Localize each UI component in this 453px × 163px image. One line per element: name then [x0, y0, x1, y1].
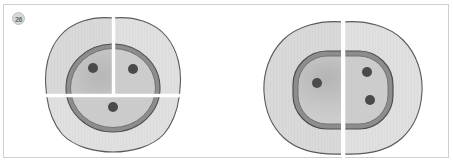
left-dot-upper-left	[88, 63, 98, 73]
right-dot-left-middle	[312, 78, 322, 88]
figure-canvas: 26	[0, 0, 453, 163]
right-dot-right-lower	[365, 95, 375, 105]
specimen-illustrations	[0, 0, 453, 163]
panel-number-badge: 26	[12, 12, 25, 25]
left-dot-upper-right	[128, 64, 138, 74]
right-specimen	[264, 14, 422, 158]
left-specimen	[32, 10, 198, 152]
right-dot-right-upper	[362, 67, 372, 77]
left-dot-lower-center	[108, 102, 118, 112]
